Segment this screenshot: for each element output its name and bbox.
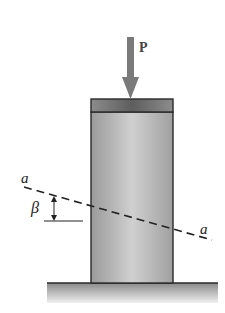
arrowhead-down-icon (51, 215, 57, 221)
bearing-plate (91, 99, 173, 112)
load-label: P (139, 40, 148, 55)
load-arrow-icon (122, 37, 139, 99)
arrowhead-up-icon (51, 196, 57, 202)
plane-label-left: a (21, 170, 29, 186)
plane-label-right: a (200, 221, 208, 237)
angle-label: β (30, 199, 39, 217)
ground-support (47, 283, 218, 303)
column (91, 112, 173, 283)
column-diagram: P a a β (0, 0, 225, 313)
angle-indicator (44, 196, 83, 221)
